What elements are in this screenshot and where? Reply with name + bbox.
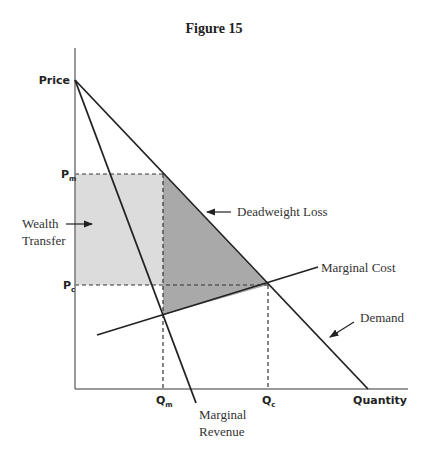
wealth-transfer-label: Wealth [22, 216, 59, 231]
wealth-transfer-region [75, 174, 163, 285]
chart-title: Figure 15 [186, 21, 243, 36]
economics-chart: Figure 15 Price Quantity Pm Pc Qm Qc Wea… [0, 0, 429, 459]
marginal-revenue-label-2: Revenue [199, 424, 245, 439]
marginal-cost-label: Marginal Cost [321, 260, 396, 275]
demand-label: Demand [360, 310, 405, 325]
demand-arrow [330, 322, 354, 337]
deadweight-loss-label: Deadweight Loss [237, 204, 328, 219]
qm-tick: Qm [156, 394, 173, 409]
qc-tick: Qc [262, 394, 276, 409]
deadweight-loss-region [163, 174, 268, 315]
x-axis-label: Quantity [353, 394, 407, 407]
marginal-revenue-label: Marginal [199, 407, 247, 422]
y-axis-label: Price [39, 74, 70, 87]
pc-tick: Pc [63, 279, 75, 294]
wealth-transfer-label-2: Transfer [22, 233, 66, 248]
pm-tick: Pm [61, 168, 76, 183]
